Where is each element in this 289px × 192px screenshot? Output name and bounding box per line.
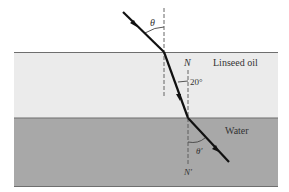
theta-label: θ bbox=[150, 17, 155, 28]
water-label: Water bbox=[225, 125, 249, 136]
linseed-oil-label: Linseed oil bbox=[213, 57, 258, 68]
refraction-diagram: θ N Linseed oil 20° Water θ′ N′ bbox=[0, 0, 289, 192]
incident-ray bbox=[123, 12, 164, 52]
normal-top-label: N bbox=[183, 57, 192, 68]
theta-prime-label: θ′ bbox=[196, 146, 203, 156]
normal-bottom-label: N′ bbox=[183, 167, 193, 177]
angle-20-label: 20° bbox=[190, 77, 203, 87]
